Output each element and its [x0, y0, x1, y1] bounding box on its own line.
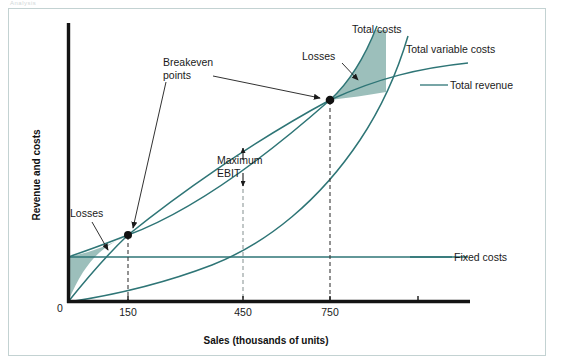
x-axis-title: Sales (thousands of units) — [203, 335, 328, 346]
x-tick-label-450: 450 — [234, 306, 252, 318]
label-losses-right: Losses — [302, 50, 335, 62]
x-tick-label-0: 0 — [57, 302, 63, 314]
breakeven-leader-left — [133, 82, 166, 228]
breakeven-leader-right — [213, 76, 320, 98]
label-fixed-costs: Fixed costs — [454, 251, 507, 263]
figure-root: Analysis — [0, 0, 562, 364]
label-losses-left: Losses — [70, 207, 103, 219]
x-tick-label-150: 150 — [119, 306, 137, 318]
label-total-revenue: Total revenue — [450, 79, 513, 91]
label-max-ebit-line2: EBIT — [217, 167, 241, 179]
breakeven-point-right — [326, 96, 335, 105]
x-axis-ticks — [128, 296, 418, 300]
breakeven-point-left — [124, 231, 132, 239]
label-total-costs: Total costs — [352, 23, 402, 35]
label-breakeven-line1: Breakeven — [163, 56, 213, 68]
label-max-ebit-line1: Maximum — [217, 154, 263, 166]
breakeven-chart: Total costs Total variable costs Total r… — [0, 0, 562, 364]
label-breakeven-line2: points — [163, 69, 191, 81]
x-tick-label-750: 750 — [321, 306, 339, 318]
y-axis-title: Revenue and costs — [31, 129, 42, 221]
label-total-variable-costs: Total variable costs — [406, 43, 495, 55]
